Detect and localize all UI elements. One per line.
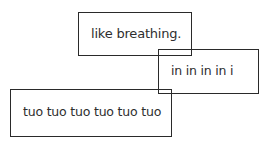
label-in: in in in in i — [171, 63, 233, 78]
label-tuo: tuo tuo tuo tuo tuo tuo — [23, 104, 161, 119]
label-like-breathing: like breathing. — [91, 26, 181, 41]
